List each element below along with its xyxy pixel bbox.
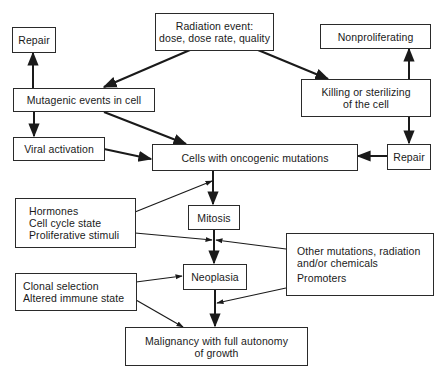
connector-arrows [0,0,444,378]
node-malignancy: Malignancy with full autonomy of growth [125,327,308,366]
node-label: Repair [18,34,50,46]
node-hormones: Hormones Cell cycle state Proliferative … [15,198,136,248]
node-neoplasia: Neoplasia [183,264,247,290]
node-label: Neoplasia [191,271,239,283]
node-label: Altered immune state [23,292,124,304]
node-other-mutations: Other mutations, radiation and/or chemic… [286,233,434,296]
node-label: Killing or sterilizing [321,86,410,98]
node-label: Repair [393,151,425,163]
node-label: Proliferative stimuli [29,229,119,241]
node-radiation-event: Radiation event: dose, dose rate, qualit… [155,13,274,51]
node-label: Promoters [297,272,346,284]
node-label: Mutagenic events in cell [27,94,141,106]
arrow-hormones-to-mitosis-link [135,233,212,240]
node-label: of growth [194,347,238,359]
node-label: Clonal selection [23,280,99,292]
arrow-clonal-to-malignancy [136,300,183,327]
node-label: Mitosis [197,212,230,224]
node-mitosis: Mitosis [188,205,240,230]
node-label: Nonproliferating [338,31,414,43]
node-killing-sterilizing: Killing or sterilizing of the cell [301,79,431,117]
arrow-radiation-to-killing [258,50,328,79]
arrow-viral-to-oncogenic [104,149,151,159]
arrow-other-to-neoplasia-link [217,288,286,303]
node-viral-activation: Viral activation [13,137,105,161]
node-label: dose, dose rate, quality [159,32,270,44]
node-label: of the cell [343,98,389,110]
node-label: Other mutations, radiation [297,245,420,257]
arrow-other-to-mitosis-link [216,240,286,249]
radiation-carcinogenesis-flow-diagram: Repair Radiation event: dose, dose rate,… [0,0,444,378]
node-repair-left: Repair [12,27,56,53]
node-nonproliferating: Nonproliferating [320,24,431,49]
node-oncogenic-cells: Cells with oncogenic mutations [152,144,358,171]
node-label: Cell cycle state [29,217,101,229]
node-clonal-selection: Clonal selection Altered immune state [15,273,137,311]
node-mutagenic-events: Mutagenic events in cell [13,88,155,112]
arrow-clonal-to-neoplasia [136,276,182,282]
node-label: and/or chemicals [297,257,378,269]
node-label: Malignancy with full autonomy [145,335,288,347]
node-repair-right: Repair [387,144,431,170]
arrow-mutagenic-to-oncogenic [104,112,186,144]
node-label: Radiation event: [176,20,253,32]
arrow-radiation-to-mutagenic [104,50,190,87]
node-label: Hormones [29,205,78,217]
node-label: Cells with oncogenic mutations [181,152,328,164]
node-label: Viral activation [24,143,94,155]
